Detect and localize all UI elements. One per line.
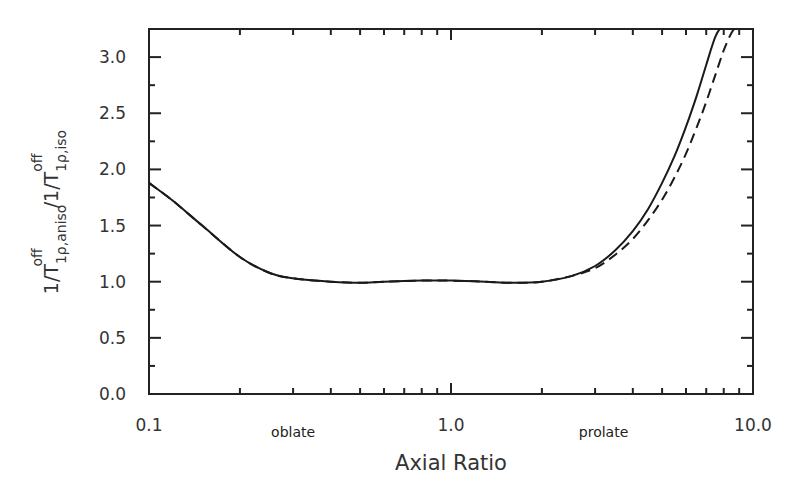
x-tick-label: 1.0 [437, 415, 464, 435]
y-label-den-sup: off [29, 153, 45, 172]
y-tick-label: 2.5 [99, 103, 126, 123]
y-axis-tick-labels: 0.00.51.01.52.02.53.0 [99, 47, 126, 404]
y-label-den-sub: 1ρ,iso [53, 130, 69, 172]
x-axis-ticks [240, 29, 739, 394]
y-axis-title: 1/T1ρ,anisooff /1/T1ρ,isooff [29, 130, 69, 294]
x-axis-title: Axial Ratio [395, 451, 507, 475]
annotation-oblate: oblate [271, 424, 315, 440]
y-tick-label: 2.0 [99, 159, 126, 179]
y-tick-label: 1.0 [99, 272, 126, 292]
y-tick-label: 1.5 [99, 216, 126, 236]
svg-text:1/T1ρ,anisooff /1/T1ρ,isooff: 1/T1ρ,anisooff /1/T1ρ,isooff [29, 130, 69, 294]
x-tick-label: 10.0 [734, 415, 772, 435]
y-label-num-sup: off [29, 248, 45, 267]
x-tick-label: 0.1 [135, 415, 162, 435]
data-series [149, 26, 738, 283]
y-label-sep: /1/T [40, 171, 62, 214]
series-solid-line [149, 26, 722, 283]
plot-frame [149, 29, 753, 394]
y-tick-label: 0.5 [99, 328, 126, 348]
x-axis-tick-labels: 0.11.010.0 [135, 415, 771, 435]
annotation-prolate: prolate [579, 424, 628, 440]
y-tick-label: 3.0 [99, 47, 126, 67]
series-dashed-line [149, 26, 738, 283]
chart: 0.00.51.01.52.02.53.0 0.11.010.0 oblatep… [0, 0, 795, 491]
y-label-num-main: 1/T [40, 264, 62, 294]
y-tick-label: 0.0 [99, 384, 126, 404]
